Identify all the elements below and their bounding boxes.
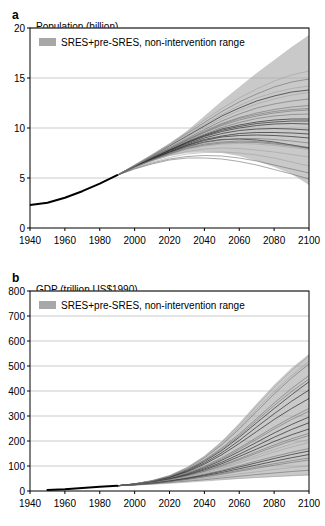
svg-text:10: 10	[14, 123, 26, 134]
svg-text:1940: 1940	[19, 498, 42, 509]
svg-text:2020: 2020	[158, 235, 181, 246]
svg-text:300: 300	[8, 411, 25, 422]
svg-text:0: 0	[19, 486, 25, 497]
svg-text:1960: 1960	[54, 498, 77, 509]
svg-text:0: 0	[19, 223, 25, 234]
svg-text:700: 700	[8, 311, 25, 322]
svg-text:1980: 1980	[89, 498, 112, 509]
svg-text:2060: 2060	[228, 235, 251, 246]
panel-b-plot: 0100200300400500600700800194019601980200…	[0, 263, 325, 526]
panel-b-gdp: b GDP (trillion US$1990) 010020030040050…	[0, 263, 325, 526]
svg-text:2000: 2000	[124, 235, 147, 246]
svg-text:1960: 1960	[54, 235, 77, 246]
svg-text:2060: 2060	[228, 498, 251, 509]
svg-text:800: 800	[8, 286, 25, 297]
svg-text:20: 20	[14, 23, 26, 34]
panel-a-plot: 0510152019401960198020002020204020602080…	[0, 0, 325, 263]
svg-text:15: 15	[14, 73, 26, 84]
svg-text:2100: 2100	[298, 498, 321, 509]
svg-text:2040: 2040	[193, 498, 216, 509]
svg-text:200: 200	[8, 436, 25, 447]
svg-text:SRES+pre-SRES, non-interventio: SRES+pre-SRES, non-intervention range	[61, 300, 245, 311]
svg-text:2080: 2080	[263, 498, 286, 509]
svg-text:2040: 2040	[193, 235, 216, 246]
svg-text:5: 5	[19, 173, 25, 184]
svg-text:500: 500	[8, 361, 25, 372]
svg-text:2020: 2020	[158, 498, 181, 509]
svg-text:1980: 1980	[89, 235, 112, 246]
svg-text:2100: 2100	[298, 235, 321, 246]
svg-text:2080: 2080	[263, 235, 286, 246]
svg-text:1940: 1940	[19, 235, 42, 246]
svg-text:2000: 2000	[124, 498, 147, 509]
svg-text:SRES+pre-SRES, non-interventio: SRES+pre-SRES, non-intervention range	[61, 37, 245, 48]
svg-text:400: 400	[8, 386, 25, 397]
svg-text:600: 600	[8, 336, 25, 347]
svg-text:100: 100	[8, 461, 25, 472]
panel-a-population: a Population (billion) 05101520194019601…	[0, 0, 325, 263]
